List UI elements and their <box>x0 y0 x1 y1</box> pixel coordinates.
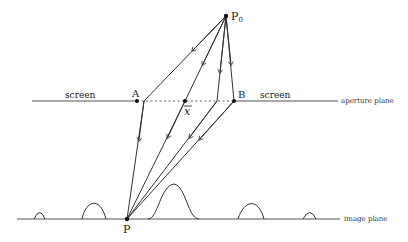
point-b-label: B <box>238 89 245 100</box>
ray-diffracted-1-arrow <box>139 101 144 140</box>
source-label: P0 <box>231 10 243 24</box>
ray-incident-1-arrow <box>193 16 226 50</box>
point-xbar <box>183 99 187 103</box>
ray-diffracted-3-arrow <box>190 101 217 137</box>
diffracted-rays <box>127 101 234 219</box>
image-plane-label: image plane <box>344 215 387 223</box>
incident-rays <box>144 16 234 101</box>
aperture-plane-label: aperture plane <box>341 97 394 105</box>
ray-incident-4-arrow <box>226 16 231 64</box>
intensity-peak-central <box>148 184 199 219</box>
intensity-peak <box>238 204 264 219</box>
ray-diffracted-4-arrow <box>200 101 234 139</box>
xbar-label: x <box>184 105 191 118</box>
ray-diffracted-2-arrow <box>168 101 185 137</box>
ray-incident-3-arrow <box>220 16 226 72</box>
image-plane: image plane <box>17 184 387 223</box>
intensity-peak <box>82 203 106 219</box>
point-a <box>135 99 139 103</box>
source-point-p0 <box>224 14 228 18</box>
screen-left-label: screen <box>65 90 96 100</box>
intensity-peak <box>303 213 316 220</box>
image-point-p <box>125 217 129 221</box>
image-point-label: P <box>123 223 131 236</box>
aperture-plane: screen screen aperture plane <box>32 90 394 105</box>
point-a-label: A <box>131 88 140 99</box>
point-b <box>232 99 236 103</box>
diffraction-diagram: screen screen aperture plane image plane <box>0 0 408 242</box>
ray-incident-2-arrow <box>203 16 226 64</box>
screen-right-label: screen <box>260 90 291 100</box>
intensity-peak <box>34 213 45 220</box>
